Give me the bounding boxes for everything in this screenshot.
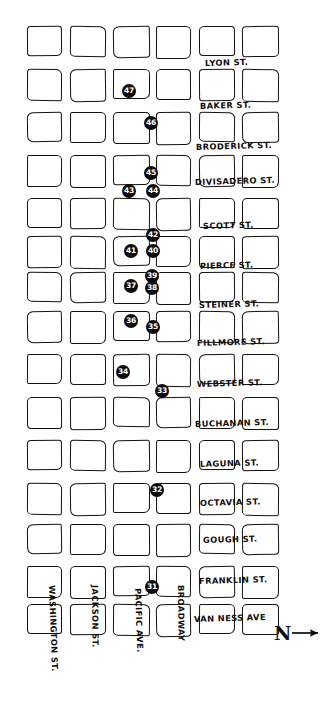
city-block [27,440,62,470]
map-marker-38[interactable]: 38 [145,281,159,295]
street-label: PIERCE ST. [200,260,254,271]
city-block [70,236,106,269]
city-block [27,311,62,343]
city-block [27,236,62,268]
street-label-vertical: JACKSON ST. [90,585,101,648]
city-block [113,483,150,513]
street-label: WEBSTER ST. [197,377,263,389]
map-marker-44[interactable]: 44 [146,184,160,198]
city-block [27,26,62,56]
street-label: VAN NESS AVE [194,612,266,624]
map-marker-43[interactable]: 43 [122,184,136,198]
city-block [156,155,191,186]
map-marker-34[interactable]: 34 [116,365,130,379]
city-block [156,524,191,557]
city-block [156,354,191,387]
city-block [113,397,150,427]
city-block [27,198,62,228]
map-marker-47[interactable]: 47 [122,84,136,98]
city-block [156,397,191,428]
map-marker-42[interactable]: 42 [146,228,160,242]
city-block [70,566,106,599]
city-block [113,112,150,144]
street-label: STEINER ST. [199,298,259,310]
city-block [199,112,235,142]
street-label: FILLMORE ST. [197,336,265,348]
city-block [199,272,235,302]
map-marker-36[interactable]: 36 [124,314,138,328]
map-marker-40[interactable]: 40 [146,244,160,258]
city-block [70,26,106,57]
city-block [27,272,62,302]
street-label: LYON ST. [205,57,249,68]
city-block [70,311,106,344]
map-marker-46[interactable]: 46 [144,116,158,130]
city-block [156,236,191,267]
city-block [70,112,106,143]
city-block [113,566,150,596]
city-block [156,198,192,231]
city-block [70,483,107,516]
city-block [70,604,106,635]
street-label: GOUGH ST. [203,533,258,545]
city-block [70,524,106,555]
street-label: FRANKLIN ST. [199,574,268,586]
compass-rose: N [274,621,326,651]
street-label: BUCHANAN ST. [195,417,269,429]
city-block [27,524,62,554]
street-label-vertical: BROADWAY [176,585,186,642]
city-block [70,440,106,471]
city-block [113,524,150,556]
city-block [156,272,191,305]
map-marker-45[interactable]: 45 [144,166,158,180]
city-block [70,155,106,188]
compass-arrow-icon [274,621,326,651]
city-block [199,26,235,56]
city-block [27,112,62,142]
street-label: OCTAVIA ST. [200,496,261,508]
city-block [27,69,62,101]
city-block [113,604,150,636]
city-block [113,198,150,230]
map-marker-33[interactable]: 33 [155,384,169,398]
city-block [156,311,191,342]
city-block [27,155,62,187]
map-marker-35[interactable]: 35 [146,320,160,334]
map-marker-31[interactable]: 31 [145,580,159,594]
city-block [70,397,106,430]
city-block [156,112,191,145]
city-block [70,198,106,229]
city-block [70,272,106,303]
map-marker-37[interactable]: 37 [124,279,138,293]
city-block [156,26,191,59]
city-block [156,69,191,100]
city-block [70,354,106,385]
city-block [242,69,279,102]
map-marker-32[interactable]: 32 [150,483,164,497]
city-block [242,26,279,57]
city-block [70,69,107,102]
street-label: BAKER ST. [200,100,252,111]
city-block [242,112,279,143]
city-block [199,69,235,101]
city-block [156,440,191,473]
street-label: SCOTT ST. [203,220,254,231]
street-label: LAGUNA ST. [200,457,259,469]
city-block [27,483,62,515]
city-block [113,26,150,58]
city-block [27,397,62,429]
city-block [27,354,62,384]
city-block [113,440,150,472]
street-label: BRODERICK ST. [196,140,272,152]
map-marker-41[interactable]: 41 [124,244,138,258]
